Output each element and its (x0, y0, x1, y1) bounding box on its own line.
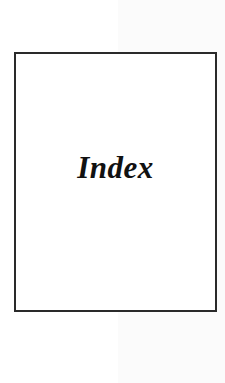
title-frame: Index (14, 52, 217, 312)
page-title: Index (16, 150, 215, 186)
